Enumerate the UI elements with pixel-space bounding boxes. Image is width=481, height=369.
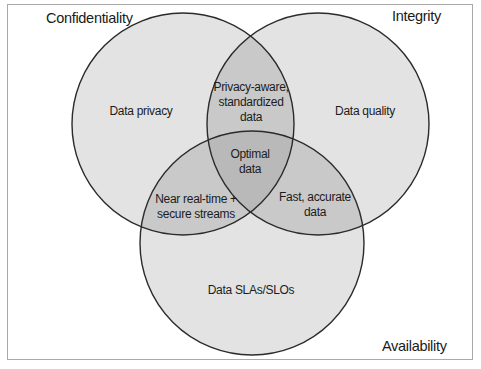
intersection-label-privacy-aware: Privacy-aware, standardized data: [208, 80, 294, 125]
set-title-confidentiality: Confidentiality: [46, 10, 133, 26]
venn-diagram: [0, 0, 481, 369]
region-label-data-slas-slos: Data SLAs/SLOs: [196, 283, 306, 298]
intersection-label-fast-accurate: Fast, accurate data: [270, 190, 360, 220]
region-label-data-privacy: Data privacy: [96, 104, 186, 119]
set-title-integrity: Integrity: [392, 8, 441, 24]
set-title-availability: Availability: [382, 338, 447, 354]
intersection-label-near-real-time: Near real-time + secure streams: [148, 192, 244, 222]
region-label-data-quality: Data quality: [320, 104, 410, 119]
intersection-label-optimal: Optimal data: [220, 147, 280, 177]
